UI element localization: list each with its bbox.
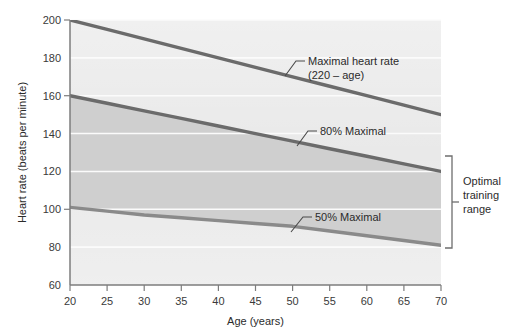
optimal-training-range-bracket: Optimal training range — [445, 156, 501, 248]
x-tick-label-65: 65 — [398, 295, 410, 307]
bracket-label-line3: range — [463, 203, 491, 215]
x-tick-label-40: 40 — [212, 295, 224, 307]
x-tick-label-30: 30 — [138, 295, 150, 307]
y-tick-label-180: 180 — [43, 52, 61, 64]
x-tick-label-55: 55 — [324, 295, 336, 307]
x-tick-label-70: 70 — [435, 295, 447, 307]
x-axis-tick-labels: 20 25 30 35 40 45 50 55 60 65 70 — [64, 295, 447, 307]
annotation-label-80-percent: 80% Maximal — [320, 125, 386, 137]
y-tick-label-200: 200 — [43, 14, 61, 26]
bracket-label-line2: training — [463, 189, 499, 201]
annotation-label-maximal-line1: Maximal heart rate — [308, 55, 399, 67]
bracket-path — [445, 156, 452, 248]
y-axis-title: Heart rate (beats per minute) — [16, 82, 28, 223]
x-tick-label-50: 50 — [286, 295, 298, 307]
x-tick-label-45: 45 — [249, 295, 261, 307]
x-axis-title: Age (years) — [227, 315, 284, 327]
x-axis-ticks — [70, 285, 441, 291]
y-tick-label-120: 120 — [43, 165, 61, 177]
y-axis-tick-labels: 200 180 160 140 120 100 80 60 — [43, 14, 61, 291]
x-tick-label-60: 60 — [361, 295, 373, 307]
annotation-label-50-percent: 50% Maximal — [315, 211, 381, 223]
x-tick-label-25: 25 — [101, 295, 113, 307]
y-tick-label-100: 100 — [43, 203, 61, 215]
heart-rate-chart-svg: 200 180 160 140 120 100 80 60 20 25 30 3… — [0, 0, 516, 334]
bracket-label-line1: Optimal — [463, 175, 501, 187]
x-tick-label-20: 20 — [64, 295, 76, 307]
y-tick-label-140: 140 — [43, 128, 61, 140]
chart-container: 200 180 160 140 120 100 80 60 20 25 30 3… — [0, 0, 516, 334]
y-tick-label-80: 80 — [49, 241, 61, 253]
y-tick-label-60: 60 — [49, 279, 61, 291]
y-axis-ticks — [64, 20, 70, 209]
y-tick-label-160: 160 — [43, 90, 61, 102]
x-tick-label-35: 35 — [175, 295, 187, 307]
annotation-label-maximal-line2: (220 – age) — [308, 69, 364, 81]
